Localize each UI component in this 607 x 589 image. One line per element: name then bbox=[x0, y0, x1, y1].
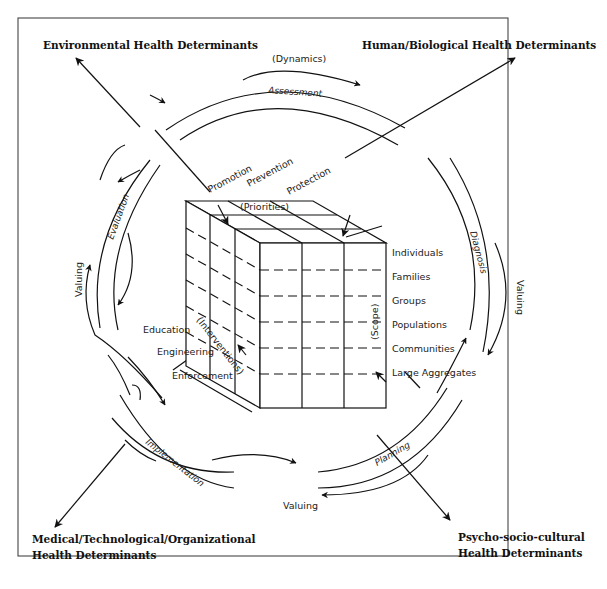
label-education: Education bbox=[143, 324, 190, 335]
label-families: Families bbox=[392, 271, 430, 282]
label-assessment: Assessment bbox=[267, 85, 323, 99]
label-valuing-left: Valuing bbox=[73, 262, 84, 297]
label-planning: Planning bbox=[373, 440, 412, 468]
label-human-biological: Human/Biological Health Determinants bbox=[362, 39, 596, 51]
label-valuing-right: Valuing bbox=[515, 280, 526, 315]
label-dynamics: (Dynamics) bbox=[272, 53, 326, 64]
arrow-medical bbox=[55, 444, 125, 527]
label-individuals: Individuals bbox=[392, 247, 443, 258]
arrow-environmental bbox=[76, 58, 140, 127]
label-medical-line1: Medical/Technological/Organizational bbox=[32, 533, 255, 545]
label-populations: Populations bbox=[392, 319, 447, 330]
label-scope: (Scope) bbox=[369, 304, 380, 340]
label-large-aggregates: Large Aggregates bbox=[392, 367, 476, 378]
label-valuing-bottom: Valuing bbox=[283, 500, 318, 511]
label-engineering: Engineering bbox=[157, 346, 214, 357]
label-evaluation: Evaluation bbox=[105, 192, 131, 240]
arrow-psycho bbox=[377, 435, 450, 520]
diagram-canvas: Environmental Health Determinants Human/… bbox=[0, 0, 607, 589]
label-implementation: Implementation bbox=[144, 437, 207, 489]
arrow-human-biological bbox=[345, 58, 515, 158]
label-psycho-line1: Psycho-socio-cultural bbox=[458, 531, 585, 543]
label-communities: Communities bbox=[392, 343, 455, 354]
label-psycho-line2: Health Determinants bbox=[458, 547, 582, 559]
label-protection: Protection bbox=[285, 164, 333, 196]
label-groups: Groups bbox=[392, 295, 426, 306]
label-enforcement: Enforcement bbox=[172, 370, 233, 381]
label-priorities: (Priorities) bbox=[240, 201, 289, 212]
line-env-to-cube bbox=[155, 130, 210, 192]
cube-front-face bbox=[260, 243, 386, 408]
label-medical-line2: Health Determinants bbox=[32, 549, 156, 561]
label-environmental: Environmental Health Determinants bbox=[43, 39, 258, 51]
